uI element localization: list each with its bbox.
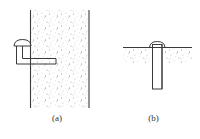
- figure-canvas: (a) (b): [0, 0, 200, 139]
- bolt-dome-head: [14, 40, 31, 47]
- panel-b: (b): [123, 42, 192, 124]
- panel-b-label: (b): [148, 113, 159, 123]
- panel-a: (a): [14, 10, 89, 123]
- panel-a-label: (a): [52, 113, 62, 123]
